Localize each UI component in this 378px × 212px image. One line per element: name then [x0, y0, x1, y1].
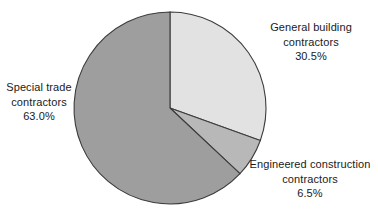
pie-chart-figure: General building contractors 30.5% Speci…	[0, 0, 378, 212]
pie-label-engineered-construction-value: 6.5%	[242, 186, 378, 201]
pie-label-special-trade-value: 63.0%	[2, 109, 76, 124]
pie-label-general-building: General building contractors 30.5%	[246, 20, 376, 64]
pie-label-general-building-line1: General building	[246, 20, 376, 35]
pie-label-general-building-line2: contractors	[246, 35, 376, 50]
pie-label-special-trade-line2: contractors	[2, 95, 76, 110]
pie-label-engineered-construction-line1: Engineered construction	[242, 157, 378, 172]
pie-label-special-trade: Special trade contractors 63.0%	[2, 80, 76, 124]
pie-label-general-building-value: 30.5%	[246, 49, 376, 64]
pie-label-special-trade-line1: Special trade	[2, 80, 76, 95]
pie-label-engineered-construction: Engineered construction contractors 6.5%	[242, 157, 378, 201]
pie-label-engineered-construction-line2: contractors	[242, 172, 378, 187]
